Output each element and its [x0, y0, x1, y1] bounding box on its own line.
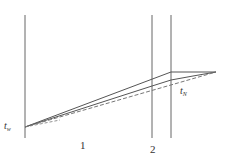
label-t-w-sub: w	[7, 126, 11, 132]
label-t-w: tw	[4, 120, 11, 132]
label-region-2: 2	[150, 143, 156, 155]
profile-line-dashed	[25, 72, 216, 127]
label-t-n: tN	[180, 85, 187, 97]
label-t-n-sub: N	[183, 91, 187, 97]
diagram-canvas	[0, 0, 236, 165]
label-region-1: 1	[80, 139, 86, 151]
